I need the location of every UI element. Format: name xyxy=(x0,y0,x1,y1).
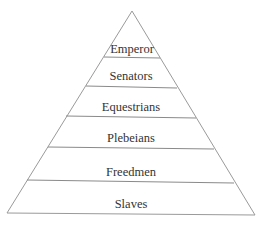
level-label-emperor: Emperor xyxy=(110,42,155,56)
level-label-senators: Senators xyxy=(109,69,152,83)
level-label-equestrians: Equestrians xyxy=(102,100,160,114)
pyramid-diagram: Emperor Senators Equestrians Plebeians F… xyxy=(0,0,262,227)
level-label-plebeians: Plebeians xyxy=(107,131,155,145)
level-label-freedmen: Freedmen xyxy=(106,165,157,179)
level-label-slaves: Slaves xyxy=(115,197,148,211)
